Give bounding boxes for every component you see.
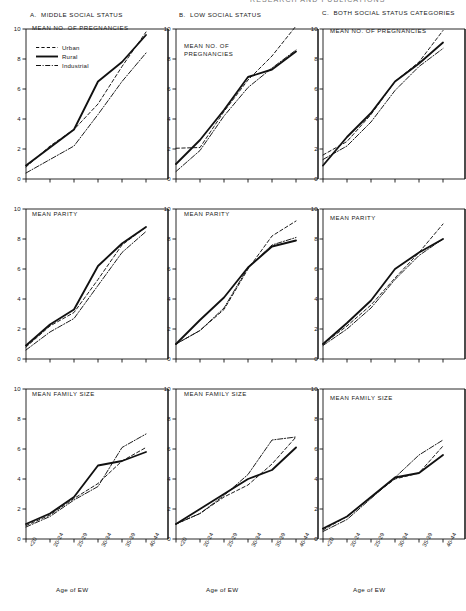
svg-text:4: 4 [167, 296, 171, 302]
series-industrial [323, 239, 443, 346]
series-urban [26, 32, 146, 167]
svg-text:2: 2 [17, 146, 21, 152]
svg-text:8: 8 [314, 56, 318, 62]
svg-text:2: 2 [314, 146, 318, 152]
svg-text:8: 8 [17, 236, 21, 242]
svg-text:10: 10 [311, 26, 318, 32]
svg-text:2: 2 [167, 326, 171, 332]
svg-text:10: 10 [14, 26, 21, 32]
x-axis-caption: Age of EW [353, 586, 385, 593]
svg-text:6: 6 [314, 266, 318, 272]
series-rural [26, 452, 146, 524]
series-urban [176, 26, 296, 148]
series-urban [176, 437, 296, 524]
svg-text:0: 0 [167, 176, 171, 182]
svg-text:2: 2 [17, 326, 21, 332]
svg-text:8: 8 [167, 56, 171, 62]
svg-text:6: 6 [167, 446, 171, 452]
svg-text:10: 10 [311, 386, 318, 392]
chart-b-family: 0246810 [158, 381, 326, 549]
series-rural [26, 35, 146, 166]
svg-text:6: 6 [17, 86, 21, 92]
svg-text:4: 4 [167, 476, 171, 482]
svg-text:10: 10 [14, 386, 21, 392]
series-industrial [176, 238, 296, 345]
svg-text:4: 4 [314, 476, 318, 482]
series-industrial [323, 440, 443, 532]
svg-text:2: 2 [314, 506, 318, 512]
svg-text:2: 2 [167, 146, 171, 152]
svg-text:8: 8 [314, 416, 318, 422]
svg-text:10: 10 [164, 26, 171, 32]
svg-text:2: 2 [167, 506, 171, 512]
svg-text:10: 10 [164, 206, 171, 212]
svg-text:6: 6 [167, 266, 171, 272]
series-rural [26, 227, 146, 346]
svg-text:10: 10 [14, 206, 21, 212]
chart-c-family: 0246810 [305, 381, 466, 549]
series-industrial [26, 53, 146, 173]
chart-c-parity: 0246810 [305, 201, 466, 369]
svg-text:6: 6 [314, 446, 318, 452]
svg-text:0: 0 [17, 356, 21, 362]
chart-a-parity: 0246810 [8, 201, 176, 369]
series-rural [323, 43, 443, 166]
svg-text:2: 2 [314, 326, 318, 332]
svg-text:8: 8 [167, 416, 171, 422]
svg-text:6: 6 [17, 266, 21, 272]
svg-text:4: 4 [17, 476, 21, 482]
svg-text:0: 0 [17, 176, 21, 182]
series-rural [176, 241, 296, 345]
svg-text:8: 8 [167, 236, 171, 242]
svg-text:4: 4 [17, 296, 21, 302]
panel-title-a: A. MIDDLE SOCIAL STATUS [30, 11, 123, 18]
series-industrial [26, 232, 146, 351]
svg-text:8: 8 [17, 56, 21, 62]
cropped-header-text: RESEARCH AND PUBLICATIONS [250, 0, 466, 3]
svg-text:0: 0 [314, 536, 318, 542]
chart-a-family: 0246810 [8, 381, 176, 549]
svg-text:0: 0 [167, 536, 171, 542]
svg-text:6: 6 [167, 86, 171, 92]
svg-text:4: 4 [17, 116, 21, 122]
svg-text:0: 0 [314, 176, 318, 182]
figure-root: RESEARCH AND PUBLICATIONS A. MIDDLE SOCI… [0, 0, 466, 611]
series-rural [176, 448, 296, 525]
cropped-page-header: RESEARCH AND PUBLICATIONS [250, 0, 466, 9]
svg-text:4: 4 [314, 116, 318, 122]
chart-a-pregnancies: 0246810 [8, 21, 176, 189]
svg-text:8: 8 [17, 416, 21, 422]
panel-title-c: C. BOTH SOCIAL STATUS CATEGORIES [322, 9, 455, 16]
svg-text:2: 2 [17, 506, 21, 512]
svg-text:0: 0 [17, 536, 21, 542]
svg-text:6: 6 [17, 446, 21, 452]
svg-text:10: 10 [311, 206, 318, 212]
series-industrial [176, 50, 296, 172]
x-axis-caption: Age of EW [206, 586, 238, 593]
svg-text:4: 4 [314, 296, 318, 302]
svg-text:10: 10 [164, 386, 171, 392]
svg-text:4: 4 [167, 116, 171, 122]
chart-c-pregnancies: 0246810 [305, 21, 466, 189]
chart-b-parity: 0246810 [158, 201, 326, 369]
x-axis-caption: Age of EW [56, 586, 88, 593]
series-rural [323, 239, 443, 344]
svg-text:6: 6 [314, 86, 318, 92]
svg-text:0: 0 [314, 356, 318, 362]
series-industrial [176, 437, 296, 524]
svg-text:8: 8 [314, 236, 318, 242]
chart-b-pregnancies: 0246810 [158, 21, 326, 189]
svg-text:0: 0 [167, 356, 171, 362]
series-urban [323, 31, 443, 156]
panel-title-b: B. LOW SOCIAL STATUS [179, 11, 261, 18]
series-rural [176, 52, 296, 165]
